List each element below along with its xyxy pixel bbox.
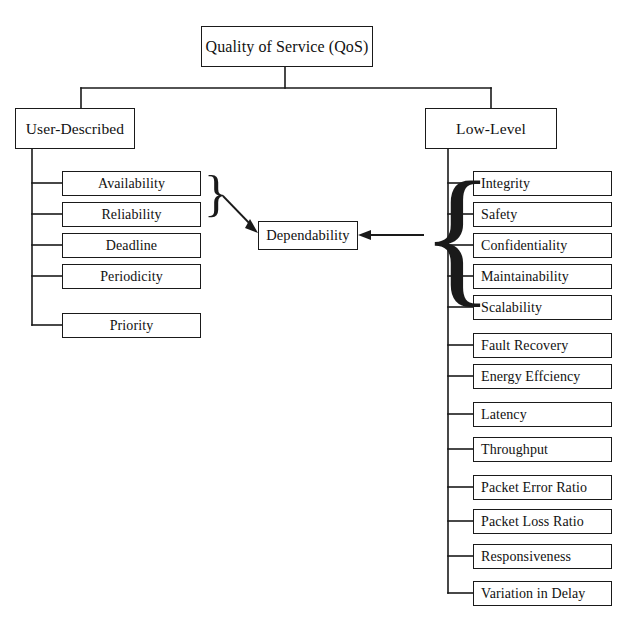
node-responsiveness: Responsiveness (473, 544, 612, 569)
node-label: Latency (481, 407, 527, 423)
node-deadline: Deadline (62, 233, 201, 258)
node-label: Low-Level (456, 120, 526, 138)
node-label: Quality of Service (QoS) (206, 38, 369, 56)
right-grouping-brace: { (421, 160, 494, 312)
node-variation-in-delay: Variation in Delay (473, 581, 612, 606)
node-label: Energy Effciency (481, 369, 580, 385)
node-label: Throughput (481, 442, 548, 458)
node-throughput: Throughput (473, 437, 612, 462)
arrow-left-to-dependability (223, 196, 258, 233)
node-low-level: Low-Level (425, 108, 557, 149)
node-label: Responsiveness (481, 549, 571, 565)
node-user-described: User-Described (15, 108, 135, 149)
node-latency: Latency (473, 402, 612, 427)
node-fault-recovery: Fault Recovery (473, 333, 612, 358)
node-label: Priority (110, 318, 154, 334)
node-periodicity: Periodicity (62, 264, 201, 289)
brace-glyph: } (204, 165, 228, 221)
node-packet-error-ratio: Packet Error Ratio (473, 475, 612, 500)
brace-glyph: { (421, 152, 494, 320)
node-label: Availability (98, 176, 165, 192)
node-label: Reliability (101, 207, 161, 223)
node-label: User-Described (26, 120, 124, 138)
arrow-right-to-dependability (358, 230, 424, 240)
node-label: Periodicity (100, 269, 163, 285)
node-dependability: Dependability (258, 221, 358, 250)
node-packet-loss-ratio: Packet Loss Ratio (473, 509, 612, 534)
node-availability: Availability (62, 171, 201, 196)
node-label: Variation in Delay (481, 586, 585, 602)
qos-taxonomy-diagram: Quality of Service (QoS) User-Described … (0, 0, 638, 635)
node-reliability: Reliability (62, 202, 201, 227)
node-label: Fault Recovery (481, 338, 568, 354)
node-quality-of-service: Quality of Service (QoS) (201, 26, 373, 67)
node-label: Dependability (266, 227, 349, 244)
node-energy-efficiency: Energy Effciency (473, 364, 612, 389)
node-priority: Priority (62, 313, 201, 338)
node-label: Packet Loss Ratio (481, 514, 584, 530)
node-label: Deadline (106, 238, 157, 254)
node-label: Maintainability (481, 269, 569, 285)
left-grouping-brace: } (204, 168, 228, 218)
node-label: Packet Error Ratio (481, 480, 587, 496)
